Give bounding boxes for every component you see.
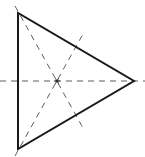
symmetry-axes [0,6,145,156]
axis-bottom-vertex [15,34,83,156]
center-asterisk-icon [54,79,60,84]
symmetry-diagram [0,0,145,157]
axis-top-vertex [15,6,83,128]
